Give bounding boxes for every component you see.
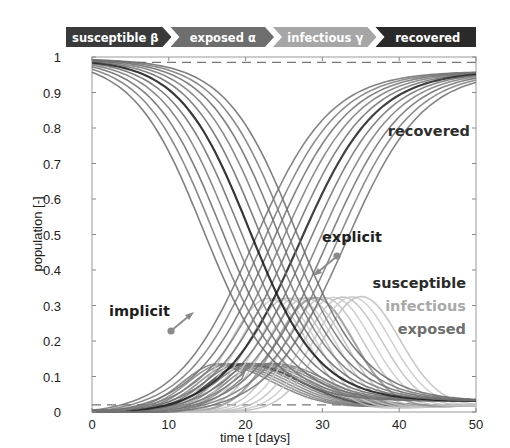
plot-area [92, 57, 476, 412]
stage-label: exposed α [190, 31, 256, 45]
x-axis-label: time t [days] [220, 430, 290, 445]
stage-label: infectious γ [287, 31, 363, 45]
y-tick-label: 0.7 [43, 157, 61, 172]
x-tick-label: 0 [88, 417, 95, 432]
y-tick-label: 0.3 [43, 299, 61, 314]
annotation-susceptible: susceptible [373, 275, 467, 291]
stage-recovered: recovered [376, 27, 477, 47]
annotation-implicit: implicit [109, 303, 170, 319]
y-tick-label: 0 [54, 405, 61, 420]
y-tick-label: 0.5 [43, 228, 61, 243]
y-tick-label: 0.6 [43, 192, 61, 207]
annotation-recovered: recovered [388, 123, 470, 139]
x-tick-label: 30 [315, 417, 329, 432]
stage-susceptible: susceptible β [66, 27, 172, 47]
y-tick-label: 0.8 [43, 121, 61, 136]
y-axis-label: population [-] [30, 196, 45, 271]
stage-infectious: infectious γ [273, 27, 377, 47]
x-tick-label: 50 [469, 417, 483, 432]
stage-label: recovered [395, 31, 460, 45]
y-tick-label: 0.9 [43, 86, 61, 101]
y-tick-labels: 00.10.20.30.40.50.60.70.80.91 [43, 50, 61, 420]
y-tick-label: 0.2 [43, 334, 61, 349]
stage-label: susceptible β [72, 31, 158, 45]
stage-banner: susceptible βexposed αinfectious γrecove… [66, 27, 476, 47]
annotation-explicit: explicit [322, 229, 382, 245]
y-tick-label: 0.4 [43, 263, 61, 278]
x-tick-label: 10 [162, 417, 176, 432]
y-tick-label: 0.1 [43, 370, 61, 385]
x-tick-label: 40 [392, 417, 406, 432]
stage-exposed: exposed α [171, 27, 275, 47]
annotation-exposed: exposed [398, 321, 466, 337]
chart: susceptible βexposed αinfectious γrecove… [0, 0, 510, 448]
y-tick-label: 1 [54, 50, 61, 65]
annotation-infectious: infectious [385, 298, 466, 314]
